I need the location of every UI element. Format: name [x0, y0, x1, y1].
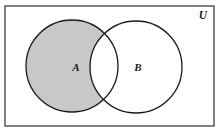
set-b-label: B: [133, 61, 141, 73]
venn-diagram-figure: A B U: [0, 0, 220, 135]
set-a-label: A: [71, 61, 79, 73]
universal-set-label: U: [199, 9, 208, 21]
venn-diagram-canvas: A B U: [0, 0, 220, 135]
